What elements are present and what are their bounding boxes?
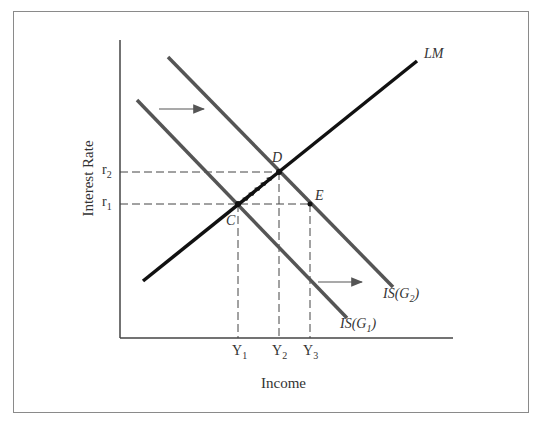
point-d-label: D (272, 150, 282, 166)
tick-y1: Y1 (232, 343, 247, 359)
tick-y2: Y2 (272, 343, 287, 359)
y-axis-label: Interest Rate (80, 119, 97, 239)
point-e-label: E (315, 188, 324, 204)
dashed-guides (120, 172, 310, 338)
adjustment-path-arrows (242, 176, 274, 201)
point-e (308, 202, 313, 207)
point-c (235, 201, 241, 207)
point-c-label: C (226, 213, 235, 229)
tick-r1: r1 (102, 194, 112, 210)
point-d (276, 169, 282, 175)
lm-label: LM (424, 46, 443, 62)
x-axis-label: Income (261, 375, 306, 392)
tick-r2: r2 (102, 162, 112, 178)
is-g1-label: IS(G1) (340, 316, 376, 332)
is-g2-label: IS(G2) (383, 286, 419, 302)
tick-y3: Y3 (303, 343, 318, 359)
